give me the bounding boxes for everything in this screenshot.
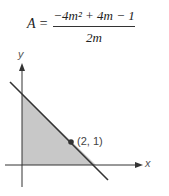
x-axis-label: x xyxy=(145,157,151,169)
x-axis-arrow-icon xyxy=(135,162,143,168)
coordinate-graph xyxy=(0,0,169,196)
point-label: (2, 1) xyxy=(77,135,103,147)
point-marker xyxy=(68,139,74,145)
y-axis-label: y xyxy=(18,48,24,60)
y-axis-arrow-icon xyxy=(19,63,25,71)
